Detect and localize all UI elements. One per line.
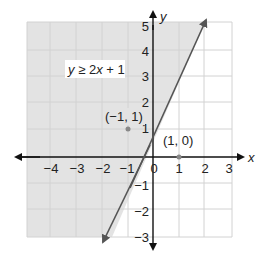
x-tick: −1 <box>120 161 135 176</box>
x-tick: −3 <box>70 161 85 176</box>
inequality-label: y ≥ 2x + 1 <box>67 62 125 77</box>
y-tick: 2 <box>142 95 149 110</box>
x-tick: 3 <box>225 161 232 176</box>
x-tick: −2 <box>96 161 111 176</box>
y-tick: 5 <box>142 19 149 34</box>
point-neg1-1 <box>126 127 131 132</box>
y-tick: −1 <box>134 178 149 193</box>
inequality-graph: −4 −3 −2 −1 0 1 2 3 5 4 3 2 1 −1 −2 −3 y… <box>0 0 264 259</box>
point-b-label: (1, 0) <box>163 133 193 148</box>
x-tick: −4 <box>44 161 59 176</box>
y-tick: −3 <box>134 230 149 245</box>
y-tick: 3 <box>142 69 149 84</box>
x-axis-label: x <box>247 150 255 165</box>
x-tick: 0 <box>150 161 157 176</box>
y-tick: 4 <box>142 44 149 59</box>
x-tick: 2 <box>201 161 208 176</box>
y-tick: −2 <box>134 204 149 219</box>
x-tick: 1 <box>175 161 182 176</box>
point-a-label: (−1, 1) <box>105 109 143 124</box>
point-1-0 <box>177 155 182 160</box>
